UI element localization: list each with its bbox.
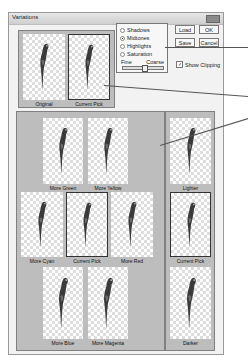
radio-saturation[interactable]: Saturation [120, 51, 152, 57]
label-more-magenta: More Magenta [88, 340, 128, 346]
slider-max-label: Coarse [146, 59, 164, 65]
brightness-panel: Lighter Current Pick Darker [165, 111, 215, 351]
radio-icon [120, 52, 125, 57]
cancel-button[interactable]: Cancel [199, 38, 219, 47]
load-button[interactable]: Load [175, 25, 195, 34]
thumb-current-pick[interactable] [68, 34, 110, 100]
label-darker: Darker [170, 340, 211, 346]
parrot-image [125, 200, 139, 249]
parrot-image [37, 42, 51, 92]
thumb-more-blue[interactable] [43, 267, 83, 339]
thumb-more-yellow[interactable] [88, 118, 128, 184]
thumb-original[interactable] [23, 34, 65, 100]
label-current-pick: Current Pick [68, 101, 110, 107]
window-title: Variations [12, 14, 38, 20]
callout-line [165, 47, 248, 48]
thumb-current-pick-brightness[interactable] [170, 192, 211, 257]
radio-icon [120, 44, 125, 49]
label-original: Original [23, 101, 65, 107]
parrot-image [80, 201, 94, 249]
parrot-image [82, 43, 96, 92]
label-current-pick-brightness: Current Pick [170, 258, 211, 264]
parrot-image [56, 276, 70, 331]
parrot-image [184, 276, 198, 331]
parrot-image [35, 200, 49, 249]
checkmark-icon: ✓ [176, 61, 183, 68]
radio-shadows[interactable]: Shadows [120, 27, 150, 33]
fine-coarse-slider[interactable] [122, 66, 164, 70]
close-button[interactable] [206, 15, 220, 23]
thumb-lighter[interactable] [170, 118, 211, 184]
thumb-more-red[interactable] [111, 192, 153, 257]
label-more-yellow: More Yellow [88, 185, 128, 191]
thumb-more-cyan[interactable] [21, 192, 63, 257]
radio-midtones[interactable]: Midtones [120, 35, 149, 41]
thumb-darker[interactable] [170, 267, 211, 339]
thumb-current-pick-color[interactable] [66, 192, 108, 257]
variations-dialog: Variations Original Current Pick Shadows… [8, 12, 224, 355]
parrot-image [56, 126, 70, 176]
original-current-panel: Original Current Pick [18, 30, 115, 108]
parrot-image [101, 276, 115, 331]
adjustment-options: Shadows Midtones Highlights Saturation F… [116, 23, 168, 73]
radio-checked-icon [120, 36, 125, 41]
radio-icon [120, 28, 125, 33]
label-lighter: Lighter [170, 185, 211, 191]
label-more-blue: More Blue [43, 340, 83, 346]
show-clipping-checkbox[interactable]: ✓ Show Clipping [176, 61, 220, 68]
parrot-image [184, 201, 198, 249]
thumb-more-green[interactable] [43, 118, 83, 184]
label-more-green: More Green [43, 185, 83, 191]
save-button[interactable]: Save [175, 38, 195, 47]
label-more-cyan: More Cyan [21, 258, 63, 264]
slider-min-label: Fine [121, 59, 132, 65]
ok-button[interactable]: OK [199, 25, 219, 34]
slider-thumb[interactable] [142, 65, 148, 72]
color-variations-panel: More Green More Yellow More Cyan Current… [16, 111, 165, 351]
label-current-pick-color: Current Pick [66, 258, 108, 264]
thumb-more-magenta[interactable] [88, 267, 128, 339]
parrot-image [101, 126, 115, 176]
label-more-red: More Red [111, 258, 153, 264]
radio-highlights[interactable]: Highlights [120, 43, 151, 49]
